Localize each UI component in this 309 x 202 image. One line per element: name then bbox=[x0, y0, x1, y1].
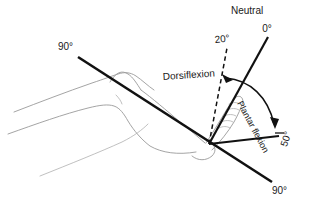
ninety-degree-upper-left-label: 90° bbox=[58, 41, 73, 52]
diagram-canvas: Neutral 0° 20° 50° 90° 90° Dorsiflexion … bbox=[0, 0, 309, 202]
shin-front-contour bbox=[141, 90, 205, 143]
plantar-flexion-label: Plantar flexion bbox=[235, 99, 271, 154]
neutral-label: Neutral bbox=[231, 5, 263, 16]
lower-leg-underside-contour bbox=[40, 124, 148, 176]
plantar-flexion-line bbox=[209, 136, 279, 144]
plantar-flexion-arrowhead bbox=[270, 117, 279, 129]
toe-line-5 bbox=[219, 127, 230, 129]
twenty-degree-label: 20° bbox=[214, 32, 230, 45]
zero-degree-label: 0° bbox=[262, 23, 272, 34]
calf-posterior-contour bbox=[8, 105, 196, 153]
ankle-range-of-motion-figure: Neutral 0° 20° 50° 90° 90° Dorsiflexion … bbox=[0, 0, 309, 202]
dorsiflexion-label: Dorsiflexion bbox=[162, 67, 215, 82]
ninety-degree-lower-right-label: 90° bbox=[272, 185, 287, 196]
knee-crease bbox=[116, 95, 122, 104]
